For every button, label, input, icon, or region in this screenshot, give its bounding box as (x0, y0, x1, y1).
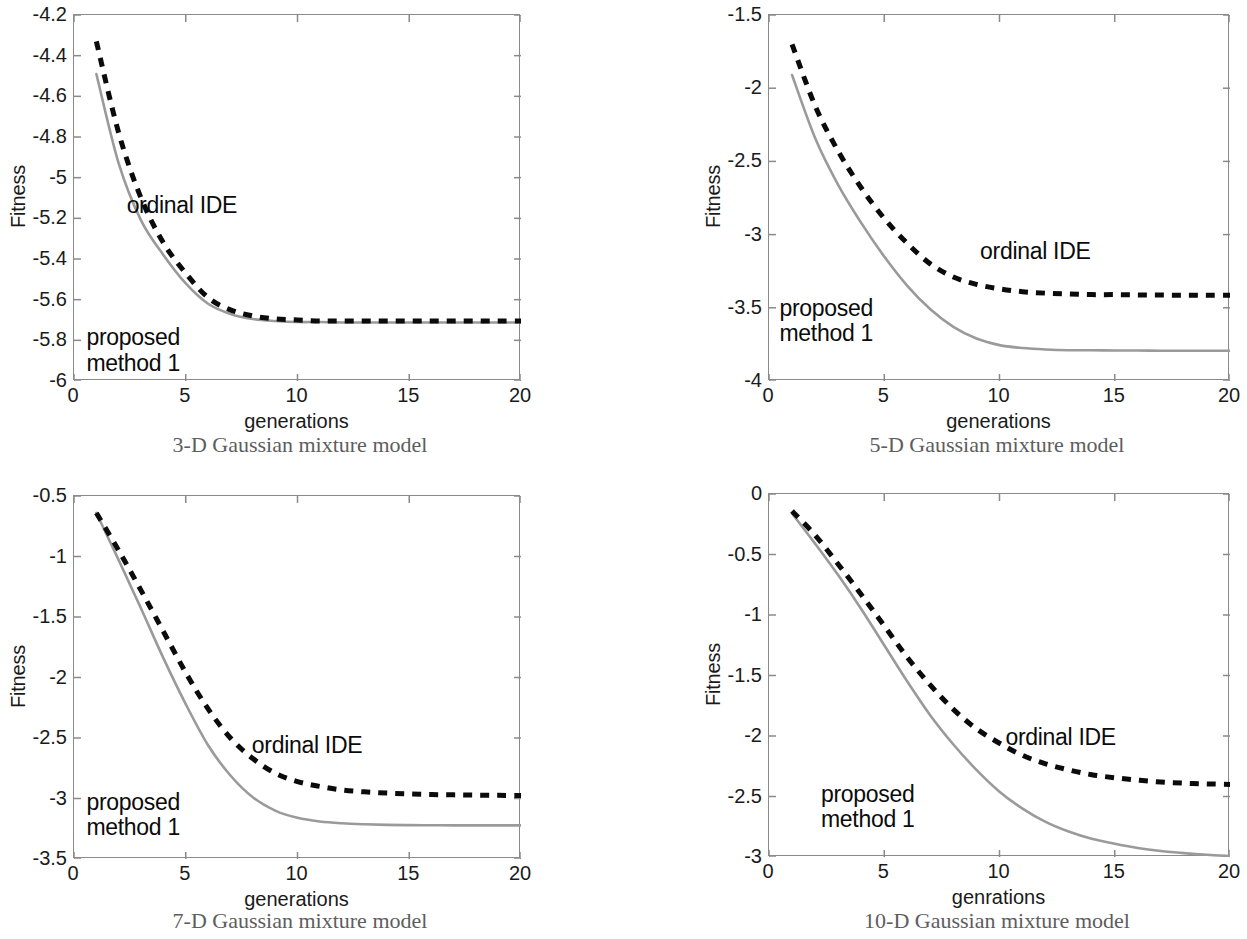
x-axis-tick-label: 15 (397, 384, 419, 407)
series-annotation-ordinal-ide: ordinal IDE (252, 733, 362, 759)
y-axis-tick-label: -1.5 (696, 3, 762, 26)
x-axis-label: genrations (768, 886, 1229, 909)
x-axis-tick-label: 5 (179, 862, 190, 885)
x-axis-tick-label: 20 (509, 862, 531, 885)
x-axis-tick-label: 0 (762, 860, 773, 883)
y-axis-tick-label: -5.6 (1, 287, 67, 310)
x-axis-tick-label: 10 (987, 860, 1009, 883)
y-axis-label: Fitness (7, 596, 30, 756)
x-axis-label: generations (768, 410, 1229, 433)
y-axis-label: Fitness (702, 594, 725, 754)
series-annotation-proposed-method: proposed method 1 (86, 325, 180, 377)
x-axis-tick-label: 20 (1218, 860, 1240, 883)
y-axis-tick-label: -2 (696, 76, 762, 99)
y-axis-tick-label: -4.6 (1, 84, 67, 107)
series-line-solid (96, 513, 521, 825)
x-axis-tick-label: 0 (762, 384, 773, 407)
y-axis-label: Fitness (702, 117, 725, 277)
y-axis-tick-label: -4 (696, 369, 762, 392)
y-axis-tick-label: -4.4 (1, 43, 67, 66)
y-axis-tick-label: -0.5 (696, 542, 762, 565)
y-axis-tick-label: -0.5 (1, 484, 67, 507)
panel-caption: 10-D Gaussian mixture model (697, 908, 1247, 934)
x-axis-tick-label: 15 (1103, 860, 1125, 883)
x-axis-tick-label: 0 (67, 862, 78, 885)
series-annotation-ordinal-ide: ordinal IDE (980, 239, 1090, 265)
x-axis-tick-label: 20 (509, 384, 531, 407)
y-axis-tick-label: -6 (1, 369, 67, 392)
x-axis-tick-label: 15 (397, 862, 419, 885)
series-annotation-ordinal-ide: ordinal IDE (1005, 725, 1115, 751)
x-axis-tick-label: 5 (878, 384, 889, 407)
x-axis-tick-label: 15 (1103, 384, 1125, 407)
x-axis-tick-label: 0 (67, 384, 78, 407)
x-axis-label: generations (73, 410, 520, 433)
x-axis-tick-label: 10 (285, 384, 307, 407)
x-axis-tick-label: 5 (878, 860, 889, 883)
y-axis-tick-label: -2.5 (696, 784, 762, 807)
x-axis-tick-label: 10 (285, 862, 307, 885)
y-axis-tick-label: -5.8 (1, 328, 67, 351)
x-axis-tick-label: 5 (179, 384, 190, 407)
panel-caption: 5-D Gaussian mixture model (697, 432, 1247, 458)
y-axis-tick-label: -3.5 (1, 847, 67, 870)
y-axis-label: Fitness (7, 117, 30, 277)
series-annotation-proposed-method: proposed method 1 (821, 782, 915, 834)
y-axis-tick-label: -4.2 (1, 3, 67, 26)
series-line-dashed (96, 41, 521, 321)
y-axis-tick-label: 0 (696, 482, 762, 505)
series-annotation-proposed-method: proposed method 1 (86, 790, 180, 842)
panel-caption: 7-D Gaussian mixture model (0, 908, 600, 934)
panel-caption: 3-D Gaussian mixture model (0, 432, 600, 458)
y-axis-tick-label: -3 (696, 845, 762, 868)
series-annotation-proposed-method: proposed method 1 (780, 296, 874, 348)
y-axis-tick-label: -3 (1, 786, 67, 809)
y-axis-tick-label: -1 (1, 544, 67, 567)
x-axis-tick-label: 20 (1218, 384, 1240, 407)
figure-grid: -6-5.8-5.6-5.4-5.2-5-4.8-4.6-4.4-4.20510… (0, 0, 1247, 939)
x-axis-tick-label: 10 (987, 384, 1009, 407)
y-axis-tick-label: -3.5 (696, 295, 762, 318)
series-annotation-ordinal-ide: ordinal IDE (127, 193, 237, 219)
